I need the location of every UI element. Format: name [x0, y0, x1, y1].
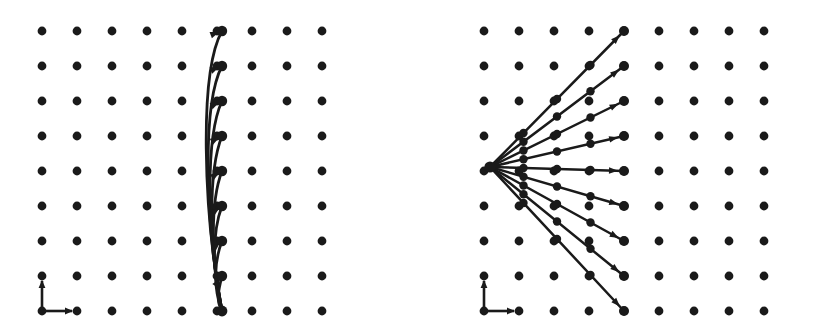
ray-waypoint-dot [586, 218, 594, 226]
ray-endpoint-dot [619, 271, 629, 281]
lattice-dot [318, 272, 327, 281]
lattice-dot [690, 167, 699, 176]
trajectory-endpoint-dot [217, 61, 227, 71]
lattice-dot [283, 307, 292, 316]
lattice-dot [73, 237, 82, 246]
lattice-dot [655, 202, 664, 211]
lattice-dot [480, 272, 489, 281]
lattice-dot [38, 62, 47, 71]
ray-endpoint-dot [619, 201, 629, 211]
lattice-dot [725, 202, 734, 211]
lattice-dot [515, 27, 524, 36]
lattice-dot [178, 62, 187, 71]
lattice-dot [515, 272, 524, 281]
lattice-dot [585, 97, 594, 106]
ray-waypoint-dot [553, 147, 561, 155]
lattice-dot [725, 167, 734, 176]
figure-canvas [0, 0, 816, 330]
lattice-dot [248, 272, 257, 281]
lattice-dot [143, 132, 152, 141]
lattice-dot [143, 237, 152, 246]
lattice-dot [550, 307, 559, 316]
lattice-dot [248, 97, 257, 106]
left-panel-plot [0, 0, 408, 330]
lattice-dot [480, 237, 489, 246]
lattice-dot [760, 62, 769, 71]
lattice-dot [550, 62, 559, 71]
lattice-dot [283, 132, 292, 141]
ray-origin-dot [484, 161, 495, 172]
lattice-dot [725, 62, 734, 71]
ray-endpoint-dot [619, 131, 629, 141]
lattice-dot [73, 27, 82, 36]
trajectory-endpoint-dot [217, 26, 227, 36]
lattice-dot [178, 202, 187, 211]
lattice-dot [283, 62, 292, 71]
ray-group [484, 26, 629, 316]
ray-arrow-icon [609, 104, 619, 111]
lattice-dot [760, 237, 769, 246]
lattice-dot [248, 62, 257, 71]
ray-waypoint-dot [553, 130, 561, 138]
lattice-dot [178, 307, 187, 316]
lattice-dot [38, 132, 47, 141]
trajectory-endpoint-dot [217, 271, 227, 281]
lattice-dot [480, 132, 489, 141]
lattice-dot [585, 202, 594, 211]
lattice-dot [178, 237, 187, 246]
ray-waypoint-dot [553, 217, 561, 225]
lattice-dot [108, 237, 117, 246]
lattice-dot [73, 167, 82, 176]
lattice-dot [515, 97, 524, 106]
lattice-dot [725, 272, 734, 281]
right-panel [408, 0, 816, 330]
ray-endpoint-dot [619, 166, 629, 176]
lattice-dot [760, 202, 769, 211]
lattice-dot [283, 237, 292, 246]
lattice-dot [108, 62, 117, 71]
dot-lattice [38, 27, 327, 316]
lattice-dot [143, 167, 152, 176]
lattice-dot [515, 237, 524, 246]
lattice-dot [725, 237, 734, 246]
ray-waypoint-dot [586, 61, 594, 69]
ray-waypoint-dot [553, 200, 561, 208]
ray-waypoint-dot [519, 173, 527, 181]
trajectory-endpoint-dot [217, 201, 227, 211]
lattice-dot [760, 132, 769, 141]
ray-arrow-icon [609, 199, 619, 205]
ray-endpoint-dot [619, 236, 629, 246]
left-panel [0, 0, 408, 330]
lattice-dot [178, 97, 187, 106]
lattice-dot [655, 237, 664, 246]
x-axis-arrow-icon [507, 308, 515, 315]
lattice-dot [655, 62, 664, 71]
lattice-dot [515, 62, 524, 71]
lattice-dot [248, 167, 257, 176]
lattice-dot [73, 62, 82, 71]
lattice-dot [248, 132, 257, 141]
lattice-dot [318, 97, 327, 106]
lattice-dot [248, 307, 257, 316]
lattice-dot [178, 272, 187, 281]
lattice-dot [480, 97, 489, 106]
ray-waypoint-dot [586, 271, 594, 279]
lattice-dot [655, 97, 664, 106]
ray-waypoint-dot [586, 113, 594, 121]
lattice-dot [38, 272, 47, 281]
ray-waypoint-dot [519, 164, 527, 172]
ray-waypoint-dot [553, 112, 561, 120]
lattice-dot [725, 97, 734, 106]
ray-waypoint-dot [586, 140, 594, 148]
lattice-dot [550, 27, 559, 36]
lattice-dot [318, 167, 327, 176]
lattice-dot [248, 202, 257, 211]
lattice-dot [73, 202, 82, 211]
lattice-dot [248, 27, 257, 36]
lattice-dot [655, 132, 664, 141]
lattice-dot [655, 272, 664, 281]
lattice-dot [38, 202, 47, 211]
lattice-dot [585, 307, 594, 316]
ray-arrow-icon [609, 231, 618, 238]
lattice-dot [760, 307, 769, 316]
